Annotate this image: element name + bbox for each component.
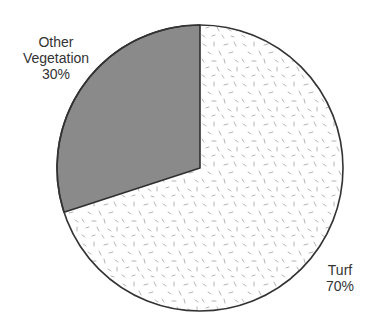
label-other-vegetation: Other Vegetation 30% xyxy=(18,34,94,82)
label-other-line1: Other xyxy=(18,34,94,50)
label-turf: Turf 70% xyxy=(318,262,362,294)
label-other-line2: Vegetation xyxy=(18,50,94,66)
label-turf-percent: 70% xyxy=(318,278,362,294)
label-other-percent: 30% xyxy=(18,66,94,82)
label-turf-line1: Turf xyxy=(318,262,362,278)
